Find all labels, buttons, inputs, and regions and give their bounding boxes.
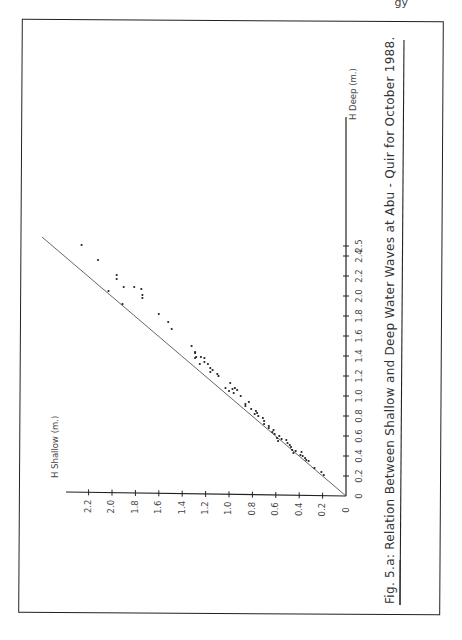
- data-point: [292, 452, 294, 454]
- data-point: [291, 449, 293, 451]
- x-tick-label: 1.2: [354, 369, 364, 383]
- y-tick-label: 0.4: [294, 503, 304, 517]
- data-point: [300, 451, 302, 453]
- data-point: [229, 382, 231, 384]
- y-tick-label: 2.0: [107, 500, 117, 514]
- data-point: [290, 446, 292, 448]
- data-point: [272, 429, 274, 431]
- data-point: [224, 387, 226, 389]
- y-tick-label: 1.2: [200, 501, 210, 515]
- data-point: [250, 408, 252, 410]
- data-point: [289, 444, 291, 446]
- data-point: [141, 297, 143, 299]
- x-tick-label: 1.6: [354, 329, 364, 343]
- data-point: [268, 427, 270, 429]
- data-point: [203, 361, 205, 363]
- fit-line: [42, 237, 346, 496]
- data-point: [256, 412, 258, 414]
- data-point: [248, 401, 250, 403]
- data-point: [209, 371, 211, 373]
- data-point: [233, 392, 235, 394]
- data-point: [209, 367, 211, 369]
- x-tick-label: 1.4: [354, 349, 364, 363]
- data-point: [268, 425, 270, 427]
- x-tick-label: 2.2: [354, 269, 364, 283]
- data-point: [194, 352, 196, 354]
- x-tick-label: 1.8: [354, 309, 364, 323]
- data-point: [286, 442, 288, 444]
- data-point: [123, 286, 125, 288]
- x-tick-label: 0.2: [354, 469, 364, 483]
- data-point: [194, 357, 196, 359]
- data-point: [158, 313, 160, 315]
- data-point: [278, 435, 280, 437]
- data-point: [121, 303, 123, 305]
- x-tick-label: 0.4: [354, 449, 364, 463]
- data-point: [255, 410, 257, 412]
- data-point: [231, 388, 233, 390]
- y-tick-label: 1.6: [153, 501, 163, 515]
- data-point: [257, 415, 259, 417]
- data-point: [200, 356, 202, 358]
- data-point: [299, 454, 301, 456]
- data-point: [97, 259, 99, 261]
- data-point: [244, 405, 246, 407]
- data-point: [274, 433, 276, 435]
- data-point: [141, 294, 143, 296]
- data-point: [133, 286, 135, 288]
- figure-caption: Fig. 5.a: Relation Between Shallow and D…: [383, 36, 397, 604]
- y-tick-label: 0.2: [317, 503, 327, 517]
- data-point: [199, 363, 201, 365]
- x-tick-label: 2.5: [354, 239, 364, 253]
- data-point: [323, 474, 325, 476]
- data-point: [254, 413, 256, 415]
- y-tick-label: 0.6: [270, 502, 280, 516]
- data-point: [313, 467, 315, 469]
- data-point: [244, 403, 246, 405]
- data-point: [207, 363, 209, 365]
- x-axis-title: H Deep (m.): [348, 68, 358, 120]
- x-tick-label: 0.6: [354, 429, 364, 443]
- x-tick-label: 0: [354, 493, 364, 498]
- data-point: [240, 395, 242, 397]
- data-point: [107, 290, 109, 292]
- data-point: [191, 345, 193, 347]
- data-point: [228, 390, 230, 392]
- data-point: [305, 459, 307, 461]
- data-point: [285, 439, 287, 441]
- data-point: [304, 457, 306, 459]
- x-tick-label: 1.0: [354, 389, 364, 403]
- data-point: [271, 431, 273, 433]
- data-point: [262, 417, 264, 419]
- data-point: [302, 455, 304, 457]
- data-point: [320, 471, 322, 473]
- y-tick-label: 0: [341, 507, 351, 512]
- data-point: [203, 357, 205, 359]
- data-point: [217, 375, 219, 377]
- caption-underline: [400, 40, 404, 605]
- data-point: [263, 420, 265, 422]
- data-point: [216, 373, 218, 375]
- data-point: [167, 321, 169, 323]
- data-point: [308, 460, 310, 462]
- data-point: [171, 328, 173, 330]
- y-tick-label: 1.8: [130, 500, 140, 514]
- x-tick-label: 0.8: [354, 409, 364, 423]
- data-point: [116, 278, 118, 280]
- data-point: [140, 288, 142, 290]
- data-point: [276, 437, 278, 439]
- data-point: [277, 440, 279, 442]
- y-tick-label: 0.8: [247, 502, 257, 516]
- data-point: [116, 274, 118, 276]
- scatter-chart: 00.20.40.60.81.01.21.41.61.82.02.22.42.5…: [0, 0, 462, 640]
- y-tick-label: 1.0: [224, 502, 234, 516]
- x-tick-label: 2.0: [354, 289, 364, 303]
- y-tick-label: 2.2: [83, 500, 93, 514]
- data-point: [236, 389, 238, 391]
- y-axis-title: H Shallow (m.): [50, 416, 60, 478]
- data-point: [263, 423, 265, 425]
- data-point: [212, 369, 214, 371]
- data-point: [281, 438, 283, 440]
- y-tick-label: 1.4: [177, 501, 187, 515]
- data-point: [81, 244, 83, 246]
